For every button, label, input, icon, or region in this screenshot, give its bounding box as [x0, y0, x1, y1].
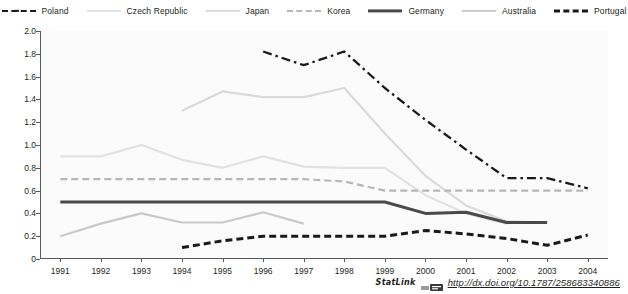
- x-tick: [547, 258, 548, 262]
- chart-legend: PolandCzech RepublicJapanKoreaGermanyAus…: [0, 0, 628, 22]
- statlink-icon: [421, 278, 443, 287]
- y-tick-label: 0.4: [2, 208, 36, 218]
- y-tick: [36, 191, 40, 192]
- y-tick-label: 0.8: [2, 163, 36, 173]
- y-tick: [36, 168, 40, 169]
- legend-item-label: Australia: [502, 6, 536, 16]
- y-tick-label: 1.6: [2, 72, 36, 82]
- y-axis-labels: 00.20.40.60.81.01.21.41.61.82.0: [0, 31, 36, 259]
- x-tick: [466, 258, 467, 262]
- y-tick: [36, 259, 40, 260]
- figure: PolandCzech RepublicJapanKoreaGermanyAus…: [0, 0, 628, 294]
- y-tick: [36, 99, 40, 100]
- x-tick: [507, 258, 508, 262]
- y-tick-label: 0: [2, 254, 36, 264]
- x-tick: [263, 258, 264, 262]
- legend-swatch-icon: [206, 6, 240, 16]
- x-tick: [101, 258, 102, 262]
- legend-swatch-icon: [554, 6, 588, 16]
- x-tick: [182, 258, 183, 262]
- statlink-url[interactable]: http://dx.doi.org/10.1787/258683340886: [448, 277, 620, 288]
- statlink-label: StatLink: [376, 278, 416, 287]
- legend-swatch-icon: [462, 6, 496, 16]
- series-lines: [40, 31, 608, 259]
- y-tick: [36, 54, 40, 55]
- x-axis-line: [40, 258, 608, 259]
- series-line-portugal: [182, 231, 588, 248]
- y-axis-line: [40, 31, 41, 259]
- legend-swatch-icon: [2, 6, 36, 16]
- legend-item-czech-republic[interactable]: Czech Republic: [87, 6, 188, 16]
- legend-item-korea[interactable]: Korea: [287, 6, 350, 16]
- legend-item-label: Portugal: [594, 6, 626, 16]
- plot-area: [40, 31, 608, 259]
- y-tick-label: 1.2: [2, 117, 36, 127]
- series-line-germany: [60, 202, 547, 223]
- legend-swatch-icon: [87, 6, 121, 16]
- y-tick-label: 2.0: [2, 26, 36, 36]
- legend-swatch-icon: [287, 6, 321, 16]
- series-line-korea: [60, 179, 587, 190]
- x-tick: [588, 258, 589, 262]
- y-tick: [36, 145, 40, 146]
- legend-item-australia[interactable]: Australia: [462, 6, 536, 16]
- series-line-australia: [60, 212, 303, 236]
- y-tick: [36, 77, 40, 78]
- y-tick-label: 1.8: [2, 49, 36, 59]
- y-tick: [36, 122, 40, 123]
- x-tick: [385, 258, 386, 262]
- y-tick: [36, 31, 40, 32]
- x-tick: [60, 258, 61, 262]
- y-tick-label: 0.6: [2, 186, 36, 196]
- y-tick-label: 0.2: [2, 231, 36, 241]
- legend-item-label: Czech Republic: [127, 6, 188, 16]
- x-tick: [141, 258, 142, 262]
- y-tick: [36, 236, 40, 237]
- x-tick: [304, 258, 305, 262]
- x-tick: [344, 258, 345, 262]
- legend-item-portugal[interactable]: Portugal: [554, 6, 626, 16]
- statlink[interactable]: StatLink http://dx.doi.org/10.1787/25868…: [376, 277, 620, 288]
- legend-item-germany[interactable]: Germany: [368, 6, 444, 16]
- legend-item-label: Japan: [246, 6, 270, 16]
- legend-item-label: Germany: [408, 6, 444, 16]
- x-tick: [425, 258, 426, 262]
- legend-swatch-icon: [368, 6, 402, 16]
- x-tick: [223, 258, 224, 262]
- y-tick-label: 1.0: [2, 140, 36, 150]
- legend-item-poland[interactable]: Poland: [2, 6, 69, 16]
- legend-item-label: Poland: [42, 6, 69, 16]
- legend-item-label: Korea: [327, 6, 350, 16]
- legend-item-japan[interactable]: Japan: [206, 6, 270, 16]
- y-tick-label: 1.4: [2, 94, 36, 104]
- figure-footer: StatLink http://dx.doi.org/10.1787/25868…: [0, 275, 628, 294]
- y-tick: [36, 213, 40, 214]
